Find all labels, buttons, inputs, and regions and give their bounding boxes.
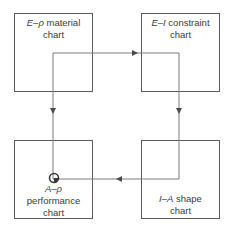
- arrow-down-icon: [176, 108, 182, 114]
- arrow-right-icon: [132, 50, 138, 56]
- target-fill-icon: [54, 178, 59, 183]
- arrow-down-icon: [50, 108, 56, 114]
- flow-path: [53, 53, 179, 179]
- flow-arrows: [0, 0, 234, 233]
- arrow-left-icon: [116, 176, 122, 182]
